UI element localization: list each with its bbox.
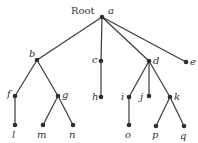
rooted-tree-diagram: Root abcdefghijklmnopq [0,0,198,143]
node-q [182,124,187,129]
node-label-i: i [121,91,124,102]
edge-g-n [58,96,73,125]
node-label-m: m [37,129,46,140]
node-k [168,95,173,100]
node-j [147,94,152,99]
root-caption: Root [71,5,95,16]
node-c [99,59,104,64]
node-label-d: d [153,55,159,66]
edge-g-m [43,96,58,125]
edge-b-f [15,60,37,96]
node-label-j: j [138,91,143,102]
edge-k-p [156,97,170,126]
tree-edges [15,17,186,126]
node-m [41,123,46,128]
node-label-q: q [180,130,186,141]
node-label-g: g [62,89,68,100]
node-label-e: e [190,56,196,67]
node-a [100,15,105,20]
node-e [184,60,189,65]
node-f [13,94,18,99]
node-label-n: n [69,129,75,140]
node-l [13,123,18,128]
node-h [99,95,104,100]
node-o [127,123,132,128]
node-label-p: p [152,129,159,140]
node-label-o: o [125,129,131,140]
node-label-h: h [92,91,98,102]
node-p [154,124,159,129]
node-i [127,95,132,100]
node-d [147,59,152,64]
edge-d-k [149,61,170,97]
node-label-f: f [6,88,13,99]
node-label-b: b [29,48,35,59]
edge-d-i [129,61,149,97]
edge-b-g [37,60,58,96]
node-label-c: c [92,54,98,65]
node-label-k: k [174,91,180,102]
edge-a-c [101,17,102,61]
node-label-l: l [12,129,15,140]
node-n [71,123,76,128]
node-label-a: a [108,5,114,16]
node-g [56,94,61,99]
edge-a-e [102,17,186,62]
